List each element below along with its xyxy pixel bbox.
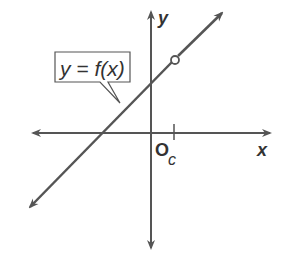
function-line <box>30 13 222 207</box>
origin-label: O <box>155 140 169 160</box>
y-axis-label: y <box>157 8 169 28</box>
function-label: y = f(x) <box>58 57 125 80</box>
tick-c-label: c <box>168 151 176 168</box>
graph-canvas: y = f(x) y x O c <box>0 0 283 255</box>
open-circle-hole <box>171 56 179 64</box>
x-axis-label: x <box>256 140 268 160</box>
